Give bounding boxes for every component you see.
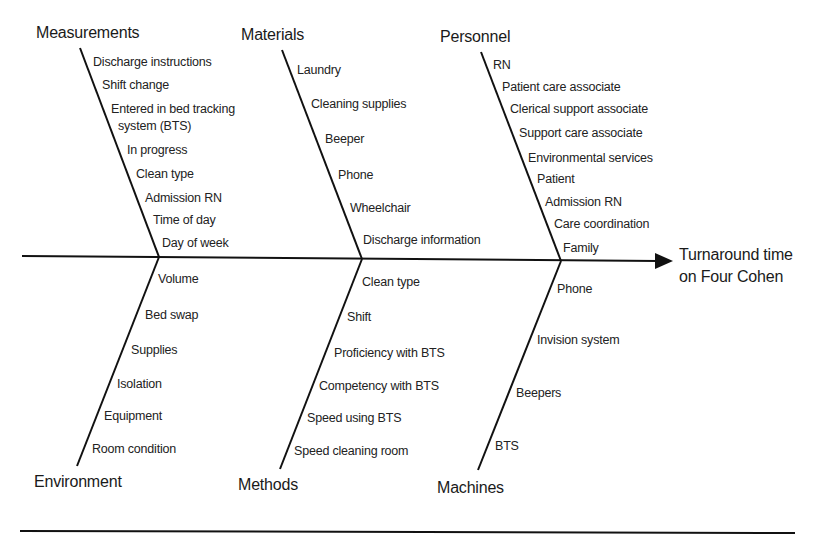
cause-label: Clerical support associate xyxy=(510,102,648,116)
bone-materials xyxy=(282,50,362,259)
cause-label: Clean type xyxy=(362,275,420,289)
cause-label: Discharge information xyxy=(363,233,480,247)
cause-label: In progress xyxy=(127,143,187,157)
cause-label: RN xyxy=(493,58,511,72)
cause-label: Admission RN xyxy=(145,191,222,205)
cause-label: Invision system xyxy=(537,333,619,347)
spine-line xyxy=(22,256,658,261)
cause-label: Phone xyxy=(557,282,592,296)
effect-line-1: Turnaround time xyxy=(679,244,793,266)
cause-label: Speed using BTS xyxy=(307,411,401,425)
cause-label: Room condition xyxy=(92,442,176,456)
effect-line-2: on Four Cohen xyxy=(679,266,793,288)
cause-label: BTS xyxy=(495,439,519,453)
cause-label: Bed swap xyxy=(145,308,198,322)
category-machines: Machines xyxy=(437,479,504,497)
cause-label: Equipment xyxy=(104,409,162,423)
cause-label: Environmental services xyxy=(528,151,653,165)
effect-label: Turnaround time on Four Cohen xyxy=(679,244,793,288)
cause-label: Shift change xyxy=(102,78,169,92)
category-methods: Methods xyxy=(238,476,298,494)
bone-environment xyxy=(77,257,159,466)
fishbone-diagram: Measurements Materials Personnel Environ… xyxy=(0,0,819,537)
cause-label: Beepers xyxy=(516,386,561,400)
category-measurements: Measurements xyxy=(36,24,139,42)
cause-label: Isolation xyxy=(117,377,162,391)
cause-label: Cleaning supplies xyxy=(311,97,406,111)
category-environment: Environment xyxy=(34,473,122,491)
cause-label: Care coordination xyxy=(554,217,649,231)
cause-label: Support care associate xyxy=(519,126,642,140)
cause-label: Phone xyxy=(338,168,373,182)
cause-label: Entered in bed tracking xyxy=(111,102,235,116)
cause-label: Speed cleaning room xyxy=(294,444,408,458)
cause-label: Patient xyxy=(537,172,575,186)
cause-label: Wheelchair xyxy=(350,201,411,215)
cause-label: Time of day xyxy=(153,213,216,227)
cause-label: Shift xyxy=(347,310,371,324)
cause-label: Supplies xyxy=(131,343,177,357)
category-materials: Materials xyxy=(241,26,304,44)
cause-label: Clean type xyxy=(136,167,194,181)
cause-label: Volume xyxy=(158,272,199,286)
category-personnel: Personnel xyxy=(440,28,510,46)
bone-methods xyxy=(280,259,362,469)
cause-label: Patient care associate xyxy=(502,80,621,94)
cause-label: Laundry xyxy=(297,63,341,77)
cause-label: Competency with BTS xyxy=(319,379,439,393)
cause-label: Family xyxy=(563,241,599,255)
cause-label: Beeper xyxy=(325,132,364,146)
cause-label: Discharge instructions xyxy=(93,55,212,69)
cause-label: system (BTS) xyxy=(118,119,191,133)
arrow-head-icon xyxy=(655,253,673,269)
cause-label: Day of week xyxy=(162,236,229,250)
bottom-rule xyxy=(20,531,795,533)
cause-label: Proficiency with BTS xyxy=(334,346,445,360)
cause-label: Admission RN xyxy=(545,195,622,209)
bone-machines xyxy=(478,261,561,470)
